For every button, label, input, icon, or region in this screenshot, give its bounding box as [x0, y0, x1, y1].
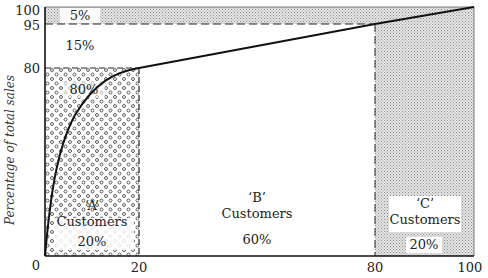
b-customers-pct: 60%: [243, 232, 272, 247]
c-customers-label: ‘C’: [416, 196, 434, 211]
y-axis-label: Percentage of total sales: [3, 75, 17, 226]
x-tick-20: 20: [131, 260, 148, 275]
x-tick-80: 80: [367, 260, 384, 275]
region-c-top-band: [45, 7, 474, 24]
a-customers-sub: Customers: [57, 214, 128, 229]
y-tick-80: 80: [23, 61, 40, 76]
x-tick-100: 100: [458, 260, 483, 275]
band-c-pct: 5%: [70, 8, 91, 23]
c-customers-sub: Customers: [390, 212, 461, 227]
a-customers-label: ‘A’: [85, 198, 99, 213]
band-b-pct: 15%: [66, 38, 95, 53]
abc-analysis-chart: 100 95 80 0 20 80 100 Percentage of tota…: [0, 0, 488, 278]
y-tick-95: 95: [23, 18, 40, 33]
y-tick-100: 100: [15, 3, 40, 18]
x-tick-0: 0: [32, 258, 40, 273]
b-customers-label: ‘B’: [248, 190, 266, 205]
c-customers-pct: 20%: [410, 237, 439, 252]
b-customers-sub: Customers: [222, 206, 293, 221]
band-a-pct: 80%: [70, 82, 99, 97]
a-customers-pct: 20%: [78, 234, 107, 249]
